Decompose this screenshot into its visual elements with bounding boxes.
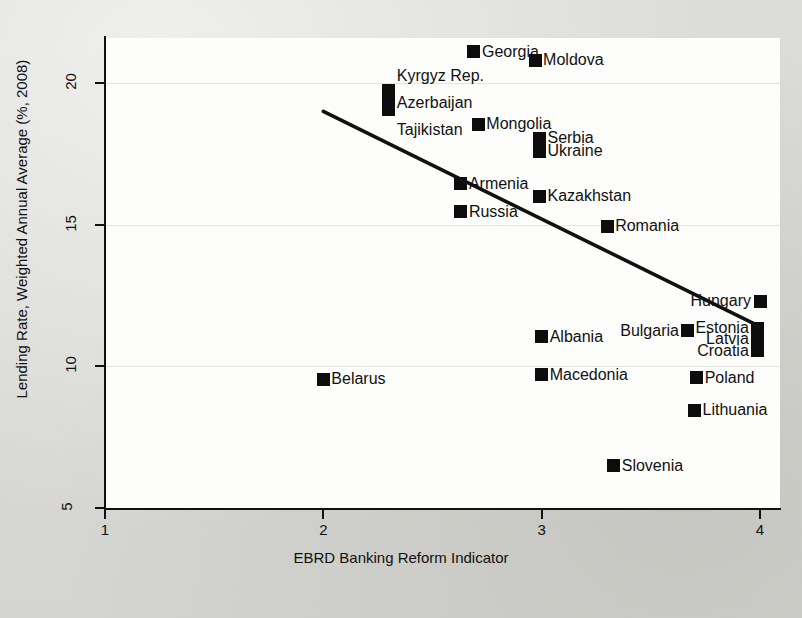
data-label-poland: Poland: [705, 370, 755, 386]
data-point-macedonia: [535, 368, 548, 381]
data-point-georgia: [467, 45, 480, 58]
data-label-belarus: Belarus: [331, 371, 385, 387]
data-label-mongolia: Mongolia: [486, 116, 551, 132]
data-point-ukraine: [533, 145, 546, 158]
data-point-belarus: [317, 373, 330, 386]
scatter-chart-figure: 51015201234 GeorgiaMoldovaKyrgyz Rep.Aze…: [0, 0, 802, 618]
x-axis-line: [104, 508, 781, 510]
y-tick-label-10: 10: [62, 356, 79, 373]
y-tick-15: [95, 224, 105, 226]
x-axis-title: EBRD Banking Reform Indicator: [0, 549, 802, 566]
data-point-romania: [601, 220, 614, 233]
data-point-slovenia: [607, 459, 620, 472]
gridline-y-10: [105, 366, 780, 367]
data-label-lithuania: Lithuania: [703, 402, 768, 418]
y-tick-label-15: 15: [62, 215, 79, 232]
data-point-kazakhstan: [533, 190, 546, 203]
y-tick-20: [95, 82, 105, 84]
data-label-romania: Romania: [615, 218, 679, 234]
data-point-poland: [690, 371, 703, 384]
x-tick-3: [541, 510, 543, 519]
data-label-macedonia: Macedonia: [550, 367, 628, 383]
data-point-russia: [454, 205, 467, 218]
data-point-albania: [535, 330, 548, 343]
y-axis-line: [104, 36, 106, 510]
y-axis-title: Lending Rate, Weighted Annual Average (%…: [13, 69, 30, 399]
data-label-ukraine: Ukraine: [547, 143, 602, 159]
data-label-tajikistan: Tajikistan: [397, 122, 463, 138]
data-point-moldova: [529, 54, 542, 67]
x-tick-2: [322, 510, 324, 519]
y-tick-label-5: 5: [58, 502, 75, 510]
data-label-croatia: Croatia: [0, 343, 749, 359]
x-tick-label-4: 4: [747, 521, 773, 538]
data-point-serbia: [533, 132, 546, 145]
data-point-hungary: [754, 295, 767, 308]
y-tick-5: [95, 507, 105, 509]
x-tick-label-2: 2: [310, 521, 336, 538]
data-point-croatia: [751, 344, 764, 357]
data-label-armenia: Armenia: [469, 176, 529, 192]
data-label-azerbaijan: Azerbaijan: [397, 95, 473, 111]
data-point-lithuania: [688, 404, 701, 417]
x-tick-label-3: 3: [529, 521, 555, 538]
data-point-mongolia: [472, 118, 485, 131]
data-label-kyrgyz-rep: Kyrgyz Rep.: [397, 68, 484, 84]
data-label-slovenia: Slovenia: [622, 458, 683, 474]
y-tick-10: [95, 365, 105, 367]
x-tick-1: [104, 510, 106, 519]
data-label-kazakhstan: Kazakhstan: [547, 188, 631, 204]
data-label-hungary: Hungary: [0, 293, 751, 309]
data-point-armenia: [454, 177, 467, 190]
data-label-moldova: Moldova: [543, 52, 603, 68]
data-label-russia: Russia: [469, 204, 518, 220]
x-tick-4: [759, 510, 761, 519]
y-tick-label-20: 20: [62, 73, 79, 90]
data-point-tajikistan: [382, 103, 395, 116]
x-tick-label-1: 1: [92, 521, 118, 538]
